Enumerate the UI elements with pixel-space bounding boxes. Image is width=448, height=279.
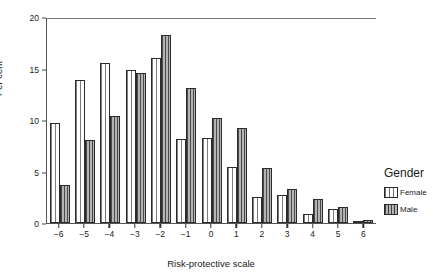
y-axis-tick-label-5: 5 <box>34 168 39 178</box>
bar-male-3[interactable] <box>287 189 297 223</box>
y-axis-tick-15: 15 <box>0 65 46 74</box>
x-tick-mark-icon <box>185 224 186 228</box>
x-axis-tick-0: 0 <box>198 224 223 246</box>
x-axis-tick-label: −5 <box>71 229 96 239</box>
x-axis-label: Risk-protective scale <box>46 258 376 269</box>
x-axis-tick-3: 3 <box>275 224 300 246</box>
bar-female--3[interactable] <box>126 70 136 223</box>
bar-male-1[interactable] <box>237 128 247 223</box>
bar-female-5[interactable] <box>328 209 338 223</box>
legend-label-female: Female <box>400 188 427 197</box>
x-tick-mark-icon <box>261 224 262 228</box>
x-axis-tick-label: 1 <box>224 229 249 239</box>
x-axis-tick-label: −2 <box>148 229 173 239</box>
x-axis-tick-label: −3 <box>122 229 147 239</box>
x-tick-mark-icon <box>134 224 135 228</box>
x-axis-tick--6: −6 <box>46 224 71 246</box>
x-axis-tick-1: 1 <box>224 224 249 246</box>
x-axis-tick-5: 5 <box>325 224 350 246</box>
x-axis-tick-label: 3 <box>275 229 300 239</box>
x-axis-tick-label: −1 <box>173 229 198 239</box>
bar-female--4[interactable] <box>100 63 110 223</box>
bar-group <box>351 19 376 223</box>
x-axis-tick-label: 5 <box>325 229 350 239</box>
x-tick-mark-icon <box>160 224 161 228</box>
y-axis-tick-label-20: 20 <box>30 13 39 23</box>
bar-female-2[interactable] <box>252 197 262 223</box>
bar-male--2[interactable] <box>161 35 171 223</box>
bar-female-3[interactable] <box>277 195 287 223</box>
bar-female-6[interactable] <box>353 221 363 223</box>
bar-group <box>325 19 350 223</box>
x-tick-mark-icon <box>312 224 313 228</box>
male-hatch-swatch-icon <box>384 204 398 215</box>
bar-group <box>174 19 199 223</box>
x-axis-tick-6: 6 <box>351 224 376 246</box>
bar-male-6[interactable] <box>363 220 373 223</box>
x-axis-tick-label: −6 <box>46 229 71 239</box>
y-axis-tick-0: 0 <box>0 220 46 229</box>
bar-group <box>250 19 275 223</box>
x-axis-tick-label: 2 <box>249 229 274 239</box>
x-tick-mark-icon <box>58 224 59 228</box>
y-axis-tick-label-10: 10 <box>30 116 39 126</box>
x-axis-tick-label: 4 <box>300 229 325 239</box>
y-axis-tick-label-15: 15 <box>30 65 39 75</box>
bar-female--5[interactable] <box>75 80 85 223</box>
bar-group <box>199 19 224 223</box>
bar-female-0[interactable] <box>202 138 212 223</box>
x-axis-ticks: −6−5−4−3−2−10123456 <box>46 224 376 246</box>
x-axis-tick--3: −3 <box>122 224 147 246</box>
y-axis-tick-20: 20 <box>0 14 46 23</box>
bar-female--2[interactable] <box>151 58 161 223</box>
x-axis-tick-2: 2 <box>249 224 274 246</box>
bar-group <box>98 19 123 223</box>
y-axis-tick-label-0: 0 <box>34 219 39 229</box>
x-tick-mark-icon <box>210 224 211 228</box>
bar-group <box>300 19 325 223</box>
x-tick-mark-icon <box>236 224 237 228</box>
chart-figure: Per cent 20 15 10 5 0 −6−5−4−3−2−1012345… <box>0 0 448 279</box>
x-axis-tick--4: −4 <box>97 224 122 246</box>
bar-female-1[interactable] <box>227 167 237 223</box>
bar-group <box>47 19 72 223</box>
bar-male-4[interactable] <box>313 199 323 223</box>
bar-group <box>148 19 173 223</box>
bar-female--1[interactable] <box>176 139 186 223</box>
bar-group <box>123 19 148 223</box>
bar-female--6[interactable] <box>50 123 60 223</box>
plot-area <box>46 18 376 224</box>
y-axis-tick-5: 5 <box>0 168 46 177</box>
x-tick-mark-icon <box>287 224 288 228</box>
bar-female-4[interactable] <box>303 214 313 223</box>
x-axis-tick--1: −1 <box>173 224 198 246</box>
x-tick-mark-icon <box>83 224 84 228</box>
legend-title: Gender <box>384 166 448 180</box>
x-axis-tick-label: 0 <box>198 229 223 239</box>
bar-male-5[interactable] <box>338 207 348 223</box>
x-axis-tick--2: −2 <box>148 224 173 246</box>
x-tick-mark-icon <box>363 224 364 228</box>
female-hatch-swatch-icon <box>384 187 398 198</box>
x-axis-tick--5: −5 <box>71 224 96 246</box>
x-axis-tick-label: 6 <box>351 229 376 239</box>
bar-male-2[interactable] <box>262 168 272 223</box>
bar-male--6[interactable] <box>60 185 70 223</box>
legend-entry-female[interactable]: Female <box>384 187 448 198</box>
y-axis-tick-10: 10 <box>0 117 46 126</box>
bar-male--3[interactable] <box>136 73 146 223</box>
bar-male-0[interactable] <box>212 118 222 223</box>
legend: Gender Female Male <box>384 166 448 221</box>
bar-male--1[interactable] <box>186 88 196 223</box>
bar-series-container <box>47 19 376 223</box>
x-tick-mark-icon <box>337 224 338 228</box>
legend-label-male: Male <box>400 205 417 214</box>
bar-male--4[interactable] <box>110 116 120 223</box>
bar-group <box>224 19 249 223</box>
x-axis-tick-4: 4 <box>300 224 325 246</box>
bar-male--5[interactable] <box>85 140 95 223</box>
x-tick-mark-icon <box>109 224 110 228</box>
bar-group <box>275 19 300 223</box>
legend-entry-male[interactable]: Male <box>384 204 448 215</box>
x-axis-tick-label: −4 <box>97 229 122 239</box>
